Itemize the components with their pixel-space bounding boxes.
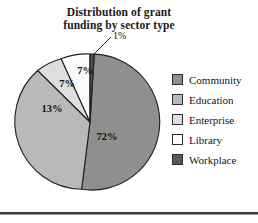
chart-title-line-1: Distribution of grant: [34, 6, 204, 19]
legend-item-library[interactable]: Library: [172, 130, 258, 149]
legend-swatch-library: [172, 134, 183, 145]
legend-label-workplace: Workplace: [189, 154, 236, 166]
chart-title: Distribution of grant funding by sector …: [34, 6, 204, 32]
legend: Community Education Enterprise Library W…: [172, 70, 258, 170]
legend-swatch-community: [172, 74, 183, 85]
slice-label-enterprise: 7%: [59, 78, 75, 89]
legend-swatch-enterprise: [172, 114, 183, 125]
pie-chart-figure: Distribution of grant funding by sector …: [0, 0, 258, 223]
legend-label-community: Community: [189, 74, 242, 86]
legend-item-enterprise[interactable]: Enterprise: [172, 110, 258, 129]
legend-label-library: Library: [189, 134, 222, 146]
slice-label-education: 13%: [42, 103, 63, 114]
legend-swatch-workplace: [172, 154, 183, 165]
workplace-callout-line: [93, 37, 111, 55]
pie-plot-area: 1% 72% 13% 7% 7%: [0, 30, 180, 210]
page-divider-rule-shadow: [0, 214, 258, 215]
pie-svg: 1% 72% 13% 7% 7%: [0, 30, 180, 210]
slice-label-library: 7%: [77, 65, 93, 76]
slice-label-community: 72%: [97, 131, 118, 142]
legend-item-community[interactable]: Community: [172, 70, 258, 89]
legend-item-education[interactable]: Education: [172, 90, 258, 109]
legend-label-education: Education: [189, 94, 234, 106]
legend-item-workplace[interactable]: Workplace: [172, 150, 258, 169]
legend-swatch-education: [172, 94, 183, 105]
legend-label-enterprise: Enterprise: [189, 114, 234, 126]
slice-label-workplace: 1%: [113, 30, 126, 41]
